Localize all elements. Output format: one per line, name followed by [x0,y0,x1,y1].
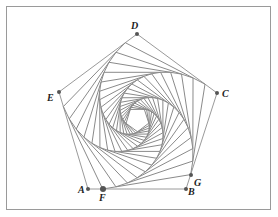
pentagon-spiral-diagram: ABCDEFG [0,0,278,217]
label-c: C [222,88,229,99]
point-e [57,90,61,94]
label-a: A [77,184,85,195]
point-d [135,32,139,36]
spiral-lines [59,34,217,189]
point-c [215,91,219,95]
point-a [86,187,90,191]
label-g: G [194,177,202,188]
label-d: D [130,20,138,31]
label-e: E [46,92,54,103]
point-labels: ABCDEFG [46,20,229,203]
label-f: F [98,192,106,203]
spiral-segment [126,123,137,131]
spiral-segment [63,107,102,189]
point-g [189,173,193,177]
